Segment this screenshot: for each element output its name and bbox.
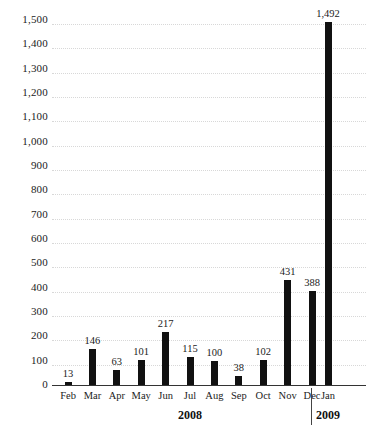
gridline: [52, 73, 366, 74]
y-axis-tick-label: 600: [2, 233, 48, 244]
bar-value-label: 431: [267, 266, 309, 277]
bar-value-label: 217: [145, 318, 187, 329]
y-axis-tick-label: 800: [2, 184, 48, 195]
bar: [325, 22, 332, 385]
gridline: [52, 219, 366, 220]
y-axis-tick-label: 0: [2, 379, 48, 390]
y-axis-tick-label: 1,100: [2, 111, 48, 122]
y-axis-tick-label: 900: [2, 160, 48, 171]
gridline: [52, 48, 366, 49]
y-axis-tick-label: 700: [2, 209, 48, 220]
y-axis-tick-label: 1,400: [2, 38, 48, 49]
bar: [260, 360, 267, 385]
x-axis-line: [52, 385, 366, 386]
y-axis-tick-label: 1,200: [2, 87, 48, 98]
gridline: [52, 170, 366, 171]
bar-value-label: 13: [47, 368, 89, 379]
bar: [113, 370, 120, 385]
y-axis-tick-label: 1,000: [2, 136, 48, 147]
gridline: [52, 97, 366, 98]
bar: [235, 376, 242, 385]
y-axis-tick-label: 200: [2, 330, 48, 341]
bar: [138, 360, 145, 385]
bar-value-label: 1,492: [307, 8, 349, 19]
y-axis-tick-label: 400: [2, 282, 48, 293]
bar-value-label: 388: [291, 277, 333, 288]
gridline: [52, 267, 366, 268]
bar: [187, 357, 194, 385]
bar: [309, 291, 316, 385]
gridline: [52, 292, 366, 293]
year-group-label: 2008: [160, 408, 220, 422]
gridline: [52, 121, 366, 122]
bar-value-label: 100: [193, 347, 235, 358]
gridline: [52, 194, 366, 195]
bar-value-label: 101: [120, 346, 162, 357]
bar-chart: 01002003004005006007008009001,0001,1001,…: [0, 0, 375, 436]
year-group-label: 2009: [298, 408, 358, 422]
y-axis-tick-label: 1,300: [2, 63, 48, 74]
y-axis-tick-label: 300: [2, 306, 48, 317]
gridline: [52, 243, 366, 244]
bar: [162, 332, 169, 385]
bar-value-label: 102: [242, 346, 284, 357]
y-axis-tick-label: 500: [2, 257, 48, 268]
y-axis-tick-label: 1,500: [2, 14, 48, 25]
gridline: [52, 146, 366, 147]
x-axis-tick-label: Jan: [311, 389, 345, 402]
bar-value-label: 38: [218, 362, 260, 373]
bar-value-label: 146: [71, 335, 113, 346]
bar: [284, 280, 291, 385]
gridline: [52, 24, 366, 25]
gridline: [52, 316, 366, 317]
y-axis-tick-label: 100: [2, 355, 48, 366]
